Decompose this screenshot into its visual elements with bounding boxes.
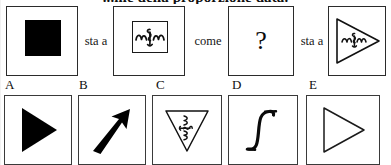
stem-panel-4 <box>328 6 386 76</box>
relation-label-1: sta a <box>80 32 112 50</box>
option-letter-e: E <box>309 78 317 92</box>
option-letter-d: D <box>232 78 241 92</box>
relation-label-2: come <box>188 32 228 50</box>
option-c[interactable] <box>152 95 222 165</box>
option-a-content <box>5 96 71 164</box>
option-e-content <box>307 96 379 164</box>
filled-right-triangle-icon <box>16 105 60 155</box>
option-e[interactable] <box>306 95 380 165</box>
option-b[interactable] <box>78 95 146 165</box>
option-letter-a: A <box>5 78 14 92</box>
question-mark-placeholder: ? <box>229 7 293 75</box>
option-box-row <box>0 95 391 165</box>
analogy-stem-row: sta a come <box>0 6 391 76</box>
option-a[interactable] <box>4 95 72 165</box>
inner-frame <box>132 21 168 53</box>
option-c-content <box>153 96 221 164</box>
option-letter-c: C <box>156 78 165 92</box>
squiggle-glyph-icon <box>134 25 166 49</box>
page-title: ...me della proporzione data. <box>0 0 391 4</box>
stem-panel-4-content <box>329 7 385 75</box>
test-item-page: ...me della proporzione data. sta a <box>0 0 391 165</box>
outline-right-triangle-icon <box>318 104 368 156</box>
stem-panel-1 <box>6 6 78 76</box>
option-d[interactable] <box>228 95 298 165</box>
stem-panel-2 <box>113 6 185 76</box>
thick-up-right-arrow-icon <box>89 105 135 155</box>
squiggle-in-down-triangle-icon <box>162 105 212 155</box>
squiggle-in-right-triangle-icon <box>332 15 382 67</box>
stem-panel-3-content: ? <box>229 7 293 75</box>
stem-panel-1-content <box>7 7 77 75</box>
option-letter-row: A B C D E <box>0 78 391 93</box>
option-d-content <box>229 96 297 164</box>
option-b-content <box>79 96 145 164</box>
integral-s-curve-icon <box>243 105 283 155</box>
stem-panel-2-content <box>114 7 184 75</box>
option-letter-b: B <box>79 78 88 92</box>
filled-black-square-icon <box>25 20 61 56</box>
stem-panel-3: ? <box>228 6 294 76</box>
relation-label-3: sta a <box>296 32 328 50</box>
